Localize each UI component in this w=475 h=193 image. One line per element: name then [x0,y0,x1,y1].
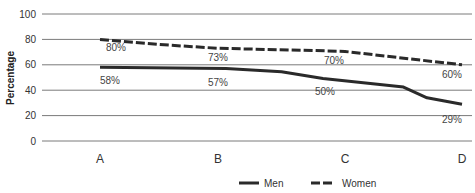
x-tick-label: D [458,152,467,166]
legend-men-label: Men [264,178,283,189]
y-axis-label: Percentage [5,51,16,105]
legend-item-women: Women [311,178,376,189]
series-line-women [100,39,462,64]
legend: Men Women [239,178,376,189]
data-labels: 58%57%50%29%80%73%70%60% [100,42,462,125]
data-label-men: 50% [315,86,335,97]
series-lines [100,39,462,104]
y-tick-label: 80 [25,34,37,45]
x-tick-label: B [214,152,222,166]
y-tick-label: 100 [19,9,36,20]
x-axis-ticks: ABCD [96,152,467,166]
line-chart: 020406080100 Percentage ABCD 58%57%50%29… [0,0,475,193]
x-tick-label: C [341,152,350,166]
series-line-men [100,67,462,104]
data-label-men: 57% [208,77,228,88]
chart-canvas: 020406080100 Percentage ABCD 58%57%50%29… [0,0,475,193]
y-tick-label: 0 [30,136,36,147]
data-label-men: 58% [100,75,120,86]
data-label-women: 73% [208,52,228,63]
data-label-women: 70% [324,55,344,66]
x-tick-label: A [96,152,104,166]
y-axis-ticks: 020406080100 [19,9,36,147]
data-label-women: 60% [442,69,462,80]
data-label-women: 80% [106,42,126,53]
y-tick-label: 60 [25,59,37,70]
data-label-men: 29% [442,114,462,125]
y-tick-label: 40 [25,85,37,96]
legend-item-men: Men [239,178,283,189]
legend-women-label: Women [342,178,376,189]
y-tick-label: 20 [25,110,37,121]
